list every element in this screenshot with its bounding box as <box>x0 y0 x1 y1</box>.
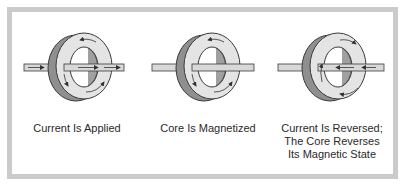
caption-line: Current Is Reversed; <box>276 122 388 135</box>
caption-current-applied: Current Is Applied <box>32 122 122 135</box>
panel-current-applied: Current Is Applied <box>14 0 134 170</box>
panel-core-magnetized: Core Is Magnetized <box>148 0 268 170</box>
caption-line: The Core Reverses <box>276 135 388 148</box>
caption-core-magnetized: Core Is Magnetized <box>160 122 256 135</box>
toroid-core-icon <box>276 0 396 110</box>
caption-line: Core Is Magnetized <box>160 122 256 135</box>
caption-line: Its Magnetic State <box>276 148 388 161</box>
panel-current-reversed: Current Is Reversed; The Core Reverses I… <box>276 0 396 170</box>
toroid-core-icon <box>14 0 134 110</box>
caption-line: Current Is Applied <box>32 122 122 135</box>
caption-current-reversed: Current Is Reversed; The Core Reverses I… <box>276 122 388 161</box>
toroid-core-icon <box>148 0 268 110</box>
